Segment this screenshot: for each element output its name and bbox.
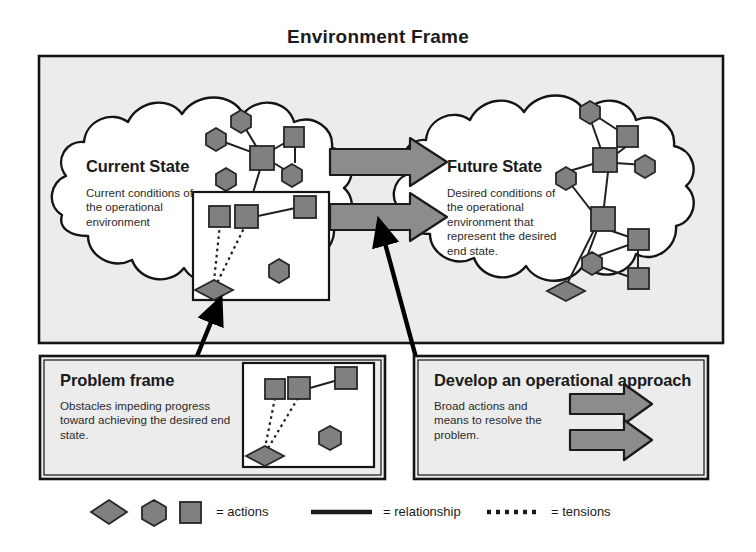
future-state-heading: Future State [447,157,542,176]
problem-frame-inner-box [243,363,374,467]
square-node [593,148,617,172]
hexagon-node [216,168,236,191]
hexagon-node [231,110,251,133]
legend-square-icon [180,502,201,523]
legend-relationship-label: = relationship [383,504,461,519]
hexagon-node [319,426,341,450]
environment-frame-diagram [0,0,756,552]
page-title: Environment Frame [0,26,756,48]
square-node [628,229,649,250]
legend-actions-label: = actions [216,504,268,519]
hexagon-node [582,252,602,275]
problem-frame-body: Obstacles impeding progress toward achie… [60,399,240,442]
operational-approach-body: Broad actions and means to resolve the p… [434,399,554,442]
square-node [617,126,638,147]
hexagon-node [269,259,289,283]
legend-hexagon-icon [142,500,166,526]
square-node [294,196,316,218]
hexagon-node [282,164,302,187]
square-node [284,127,304,147]
legend-diamond-icon [91,500,127,524]
current-state-heading: Current State [86,157,189,176]
square-node [235,205,258,228]
operational-approach-heading: Develop an operational approach [434,371,691,390]
square-node [591,207,615,231]
current-state-body: Current conditions of the operational en… [86,186,194,229]
hexagon-node [556,167,576,190]
problem-frame-heading: Problem frame [60,371,174,390]
hexagon-node [206,128,226,151]
legend-shapes [91,500,540,526]
square-node [288,377,310,399]
current-state-inner-box [193,192,329,300]
square-node [250,146,274,170]
future-state-body: Desired conditions of the operational en… [447,186,559,258]
square-node [335,367,357,389]
hexagon-node [580,101,600,124]
square-node [628,268,649,289]
square-node [209,206,230,227]
hexagon-node [635,155,655,178]
diagram-canvas: Environment Frame Current State Current … [0,0,756,552]
legend-tensions-label: = tensions [551,504,611,519]
square-node [265,379,285,399]
